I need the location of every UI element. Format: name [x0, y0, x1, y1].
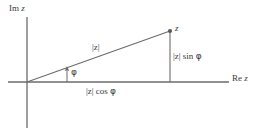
angle-phi-label: φ	[71, 68, 77, 77]
point-z-marker	[168, 29, 172, 33]
complex-number-diagram: Im z Re z z |z| φ |z| cos φ |z| sin φ	[0, 0, 271, 133]
imaginary-axis-label-variable: z	[21, 3, 25, 13]
real-component-modulus: |z|	[86, 86, 94, 96]
real-axis-label: Re z	[232, 74, 248, 83]
modulus-ray	[27, 31, 170, 82]
imaginary-component-label: |z| sin φ	[173, 52, 202, 61]
imaginary-axis-label-upright: Im	[9, 3, 19, 13]
real-axis-label-upright: Re	[232, 73, 242, 83]
modulus-label: |z|	[92, 43, 100, 52]
imaginary-component-modulus: |z|	[173, 51, 181, 61]
imaginary-component-angle: φ	[196, 51, 202, 61]
modulus-label-text: |z|	[92, 42, 100, 52]
point-z-label: z	[175, 24, 179, 33]
real-component-function: cos	[96, 86, 108, 96]
real-component-angle: φ	[110, 86, 116, 96]
real-axis-label-variable: z	[244, 73, 248, 83]
imaginary-component-function: sin	[183, 51, 194, 61]
imaginary-axis-label: Im z	[9, 4, 25, 13]
real-component-label: |z| cos φ	[86, 87, 116, 96]
diagram-canvas	[0, 0, 271, 133]
